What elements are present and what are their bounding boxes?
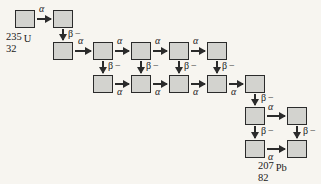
beta-minus-decay-arrow-1 <box>62 29 64 40</box>
beta-minus-label-1: β − <box>68 28 81 39</box>
beta-minus-label-5: β − <box>222 60 235 71</box>
alpha-decay-arrow-2 <box>75 50 91 52</box>
nuclide-box-b7 <box>207 42 227 60</box>
alpha-decay-arrow-5 <box>191 50 205 52</box>
end-nuclide-label-element-symbol: Pb <box>274 162 287 173</box>
alpha-label-9: α <box>231 86 236 97</box>
nuclide-box-b16 <box>287 140 307 158</box>
alpha-decay-arrow-4 <box>153 50 167 52</box>
alpha-label-1: α <box>39 3 44 14</box>
alpha-decay-arrow-6 <box>115 83 129 85</box>
alpha-label-6: α <box>117 86 122 97</box>
end-nuclide-label: 20782Pb <box>258 160 287 184</box>
nuclide-box-b9 <box>131 75 151 93</box>
beta-minus-decay-arrow-2 <box>102 61 104 73</box>
nuclide-box-b5 <box>131 42 151 60</box>
nuclide-box-b12 <box>245 75 265 93</box>
beta-minus-label-8: β − <box>303 125 316 136</box>
nuclide-box-b15 <box>245 140 265 158</box>
alpha-label-7: α <box>155 86 160 97</box>
alpha-decay-arrow-8 <box>191 83 205 85</box>
start-nuclide-label-numbers: 23532 <box>6 31 22 55</box>
start-nuclide-label-mass-number: 235 <box>6 31 22 43</box>
beta-minus-decay-arrow-6 <box>254 94 256 105</box>
beta-minus-label-7: β − <box>261 125 274 136</box>
beta-minus-decay-arrow-5 <box>216 61 218 73</box>
beta-minus-label-3: β − <box>146 60 159 71</box>
nuclide-box-b10 <box>169 75 189 93</box>
alpha-label-5: α <box>193 35 198 46</box>
nuclide-box-b14 <box>287 107 307 125</box>
alpha-decay-arrow-1 <box>37 18 51 20</box>
beta-minus-decay-arrow-4 <box>178 61 180 73</box>
start-nuclide-label-atomic-number: 32 <box>6 43 22 55</box>
alpha-decay-arrow-10 <box>267 115 285 117</box>
decay-series-diagram: αααααααααααβ −β −β −β −β −β −β −β −23532… <box>0 0 321 184</box>
nuclide-box-b1 <box>15 10 35 28</box>
beta-minus-decay-arrow-7 <box>254 126 256 138</box>
end-nuclide-label-atomic-number: 82 <box>258 172 274 184</box>
end-nuclide-label-numbers: 20782 <box>258 160 274 184</box>
beta-minus-label-4: β − <box>184 60 197 71</box>
start-nuclide-label: 23532U <box>6 31 31 55</box>
nuclide-box-b3 <box>53 42 73 60</box>
nuclide-box-b2 <box>53 10 73 28</box>
alpha-decay-arrow-3 <box>115 50 129 52</box>
end-nuclide-label-mass-number: 207 <box>258 160 274 172</box>
beta-minus-label-2: β − <box>108 60 121 71</box>
alpha-decay-arrow-11 <box>267 148 285 150</box>
alpha-decay-arrow-9 <box>229 83 243 85</box>
nuclide-box-b6 <box>169 42 189 60</box>
beta-minus-decay-arrow-3 <box>140 61 142 73</box>
alpha-label-3: α <box>117 35 122 46</box>
start-nuclide-label-element-symbol: U <box>22 33 32 44</box>
alpha-label-8: α <box>193 86 198 97</box>
nuclide-box-b13 <box>245 107 265 125</box>
nuclide-box-b8 <box>93 75 113 93</box>
alpha-decay-arrow-7 <box>153 83 167 85</box>
beta-minus-decay-arrow-8 <box>296 126 298 138</box>
beta-minus-label-6: β − <box>261 92 274 103</box>
nuclide-box-b4 <box>93 42 113 60</box>
alpha-label-4: α <box>155 35 160 46</box>
nuclide-box-b11 <box>207 75 227 93</box>
